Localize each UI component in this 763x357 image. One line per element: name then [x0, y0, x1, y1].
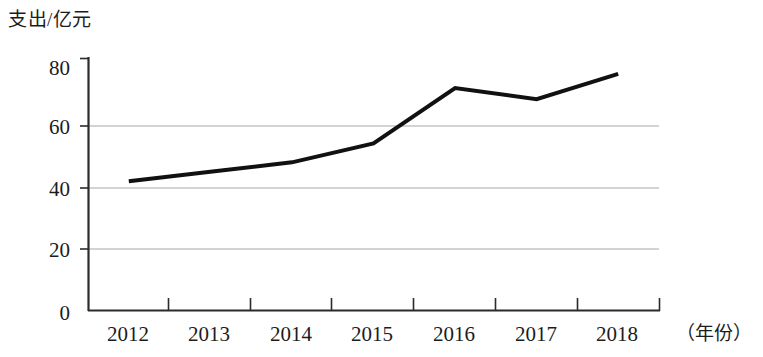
- data-line-series-1: [129, 74, 618, 182]
- x-axis-ticks: [169, 298, 660, 311]
- line-chart: 支出/亿元 （年份） 80 60 40 20 0 2012 2013 2014 …: [0, 0, 763, 357]
- plot-area: [0, 0, 763, 357]
- axes: [88, 57, 660, 311]
- y-axis-ticks: [80, 59, 88, 250]
